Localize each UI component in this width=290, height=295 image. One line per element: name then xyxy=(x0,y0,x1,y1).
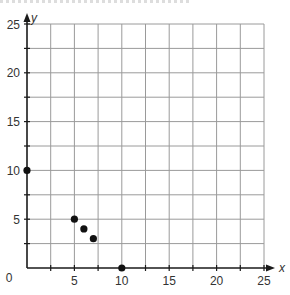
y-axis-label: y xyxy=(30,11,38,25)
x-tick-label: 25 xyxy=(257,274,271,288)
x-tick-label: 15 xyxy=(163,274,177,288)
data-point xyxy=(80,225,87,232)
origin-label: 0 xyxy=(6,271,13,285)
y-tick-label: 10 xyxy=(7,164,21,178)
data-point xyxy=(23,167,30,174)
grid-lines xyxy=(27,24,264,268)
y-tick-label: 5 xyxy=(13,213,20,227)
data-point xyxy=(71,216,78,223)
data-point xyxy=(90,235,97,242)
axes xyxy=(24,13,276,272)
data-point xyxy=(118,264,125,271)
y-axis-arrow-icon xyxy=(24,13,31,22)
x-tick-label: 20 xyxy=(210,274,224,288)
y-tick-label: 20 xyxy=(7,66,21,80)
x-tick-label: 10 xyxy=(115,274,129,288)
x-axis-arrow-icon xyxy=(266,265,275,272)
x-axis-label: x xyxy=(278,261,286,275)
y-tick-label: 25 xyxy=(7,18,21,32)
x-tick-label: 5 xyxy=(71,274,78,288)
scatter-chart: 5101520250510152025xy xyxy=(0,0,290,295)
y-tick-label: 15 xyxy=(7,115,21,129)
